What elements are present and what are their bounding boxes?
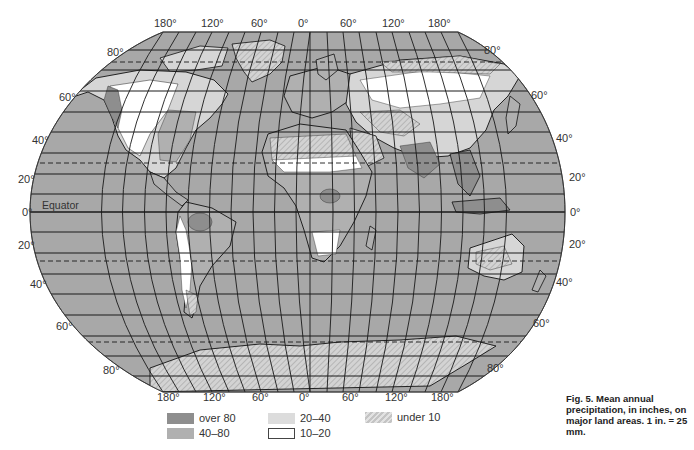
lon-label-bottom: 180° bbox=[157, 391, 180, 403]
legend-item-20-40: 20–40 bbox=[268, 412, 331, 424]
lat-label-right: 80° bbox=[487, 362, 504, 374]
lat-label-left: 80° bbox=[103, 364, 120, 376]
lon-label-top: 120° bbox=[382, 17, 405, 29]
lat-label-left: 40° bbox=[32, 134, 49, 146]
legend-swatch bbox=[167, 413, 194, 424]
lon-label-top: 120° bbox=[201, 17, 224, 29]
lon-label-bottom: 180° bbox=[431, 391, 454, 403]
lon-label-bottom: 0° bbox=[299, 391, 310, 403]
legend-swatch bbox=[268, 413, 295, 424]
legend-label: 40–80 bbox=[199, 427, 230, 439]
lat-label-right: 20° bbox=[569, 171, 586, 183]
figure-caption: Fig. 5. Mean annual precipitation, in in… bbox=[566, 393, 694, 437]
lon-label-bottom: 60° bbox=[342, 391, 359, 403]
legend-swatch bbox=[365, 412, 392, 423]
lat-label-right: 0° bbox=[570, 206, 581, 218]
legend-swatch bbox=[268, 428, 295, 439]
lat-label-left: 40° bbox=[30, 278, 47, 290]
lat-label-right: 20° bbox=[569, 238, 586, 250]
legend-label: 10–20 bbox=[300, 427, 331, 439]
lon-label-bottom: 120° bbox=[203, 391, 226, 403]
lon-label-top: 180° bbox=[428, 17, 451, 29]
legend-item-10-20: 10–20 bbox=[268, 427, 331, 439]
legend-item-under-10: under 10 bbox=[365, 411, 440, 423]
precipitation-world-map bbox=[0, 0, 694, 450]
legend-item-40-80: 40–80 bbox=[167, 427, 230, 439]
lon-label-bottom: 120° bbox=[385, 391, 408, 403]
legend-label: 20–40 bbox=[300, 412, 331, 424]
lat-label-left: 20° bbox=[18, 239, 35, 251]
lat-label-left: 0° bbox=[22, 206, 33, 218]
lat-label-right: 40° bbox=[556, 276, 573, 288]
lat-label-right: 40° bbox=[556, 132, 573, 144]
lon-label-bottom: 60° bbox=[252, 391, 269, 403]
lat-label-left: 60° bbox=[56, 320, 73, 332]
lat-label-right: 60° bbox=[533, 317, 550, 329]
lon-label-top: 0° bbox=[298, 17, 309, 29]
lat-label-left: 20° bbox=[18, 173, 35, 185]
lon-label-top: 60° bbox=[340, 17, 357, 29]
lon-label-top: 180° bbox=[154, 17, 177, 29]
lat-label-left: 60° bbox=[59, 91, 76, 103]
lat-label-right: 60° bbox=[531, 89, 548, 101]
lat-label-left: 80° bbox=[107, 46, 124, 58]
legend-label: under 10 bbox=[397, 411, 440, 423]
legend-swatch bbox=[167, 428, 194, 439]
congo-wet bbox=[320, 189, 340, 203]
legend-item-over-80: over 80 bbox=[167, 412, 236, 424]
equator-label: Equator bbox=[42, 199, 79, 211]
legend-label: over 80 bbox=[199, 412, 236, 424]
amazon-wet bbox=[188, 213, 212, 231]
lon-label-top: 60° bbox=[251, 17, 268, 29]
lat-label-right: 80° bbox=[484, 44, 501, 56]
